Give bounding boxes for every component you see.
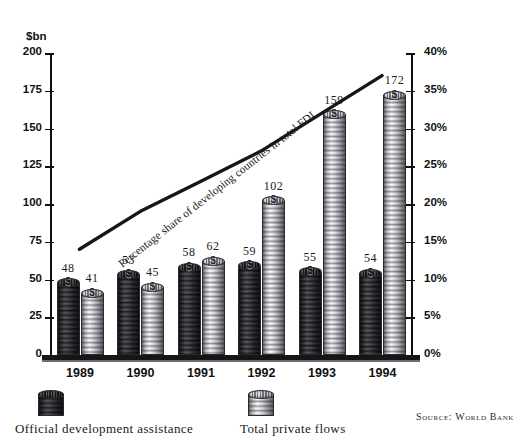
bar-value-label: 45 [133, 265, 173, 280]
coin-top-dollar-icon: $ [359, 269, 382, 278]
y-axis-right-tick-mark [406, 280, 415, 282]
bar-pvt-1990: $ [141, 287, 164, 355]
bar-value-label: 172 [375, 73, 415, 88]
bar-value-label: 62 [193, 239, 233, 254]
coin-stack-body: $ [117, 275, 140, 355]
coin-top-dollar-icon: $ [202, 257, 225, 266]
coin-stack-body: $ [262, 201, 285, 355]
y-axis-left-tick-label: 200 [8, 45, 42, 57]
coin-stack: $ [323, 115, 346, 355]
coin-top-dollar-icon: $ [323, 110, 346, 119]
y-axis-left-tick-mark [45, 280, 54, 282]
coin-top-dollar-icon: $ [178, 263, 201, 272]
y-axis-left-tick-mark [45, 53, 54, 55]
y-axis-left-tick-mark [45, 242, 54, 244]
y-axis-right-tick-mark [406, 91, 415, 93]
y-axis-left-tick-mark [45, 317, 54, 319]
dollar-sign-icon: $ [384, 90, 405, 99]
dollar-sign-icon: $ [360, 268, 381, 277]
coin-stack-body: $ [359, 273, 382, 355]
bar-pvt-1992: $ [262, 201, 285, 355]
dollar-sign-icon: $ [179, 262, 200, 271]
x-axis-year-label-1994: 1994 [353, 366, 413, 380]
y-axis-left-tick-label: 0 [8, 347, 42, 359]
coin-top-dollar-icon: $ [81, 289, 104, 298]
bar-pvt-1989: $ [81, 293, 104, 355]
y-axis-left-tick-label: 100 [8, 196, 42, 208]
y-axis-right-tick-label: 25% [424, 158, 464, 170]
coin-stack: $ [299, 272, 322, 355]
x-axis-year-label-1993: 1993 [292, 366, 352, 380]
y-axis-right-tick-mark [406, 129, 415, 131]
coin-stack: $ [81, 293, 104, 355]
y-axis-right-tick-label: 20% [424, 196, 464, 208]
coin-stack: $ [238, 266, 261, 355]
legend-label-private: Total private flows [240, 421, 346, 437]
bar-value-label: 102 [254, 179, 294, 194]
coin-top-dollar-icon: $ [262, 196, 285, 205]
bar-pvt-1991: $ [202, 261, 225, 355]
y-axis-left-tick-mark [45, 166, 54, 168]
legend-swatch-oda [38, 390, 64, 416]
y-axis-left-tick-label: 75 [8, 234, 42, 246]
coin-stack-body: $ [178, 267, 201, 355]
coin-stack: $ [57, 283, 80, 355]
y-axis-right-tick-label: 40% [424, 45, 464, 57]
y-axis-left-tick-mark [45, 91, 54, 93]
chart-canvas: $bn 2001751501251007550250 40%35%30%25%2… [0, 0, 520, 448]
dollar-sign-icon: $ [203, 256, 224, 265]
y-axis-right-tick-label: 0% [424, 347, 464, 359]
coin-stack: $ [141, 287, 164, 355]
coin-stack: $ [202, 261, 225, 355]
y-axis-left-tick-mark [45, 129, 54, 131]
y-axis-right-tick-label: 10% [424, 272, 464, 284]
y-axis-right-tick-mark [406, 166, 415, 168]
y-axis-left-tick-label: 25 [8, 309, 42, 321]
y-axis-left-tick-mark [45, 204, 54, 206]
coin-stack-body: $ [299, 272, 322, 355]
y-axis-unit-label: $bn [26, 30, 46, 42]
coin-stack-body: $ [81, 293, 104, 355]
y-axis-right-tick-mark [406, 317, 415, 319]
bar-oda-1992: $ [238, 266, 261, 355]
y-axis-left-tick-label: 150 [8, 121, 42, 133]
source-note: Source: World Bank [416, 411, 514, 422]
bar-oda-1991: $ [178, 267, 201, 355]
x-axis-year-label-1990: 1990 [111, 366, 171, 380]
y-axis-right-tick-label: 5% [424, 309, 464, 321]
coin-stack: $ [262, 201, 285, 355]
coin-stack-body: $ [57, 283, 80, 355]
y-axis-left-tick-label: 50 [8, 272, 42, 284]
y-axis-right-tick-label: 30% [424, 121, 464, 133]
x-axis-year-label-1992: 1992 [232, 366, 292, 380]
coin-top-dollar-icon: $ [383, 91, 406, 100]
y-axis-right-tick-label: 35% [424, 83, 464, 95]
dollar-sign-icon: $ [82, 288, 103, 297]
trend-line-svg [0, 0, 520, 448]
legend-label-oda: Official development assistance [15, 421, 193, 437]
y-axis-right-tick-label: 15% [424, 234, 464, 246]
bar-oda-1990: $ [117, 275, 140, 355]
y-axis-left-tick-label: 125 [8, 158, 42, 170]
bar-value-label: 41 [72, 271, 112, 286]
dollar-sign-icon: $ [239, 260, 260, 269]
coin-stack: $ [178, 267, 201, 355]
y-axis-right-tick-mark [406, 53, 415, 55]
coin-stack-body: $ [202, 261, 225, 355]
y-axis-right-tick-mark [406, 204, 415, 206]
coin-stack-body: $ [141, 287, 164, 355]
coin-stack: $ [359, 273, 382, 355]
coin-stack-body: $ [238, 266, 261, 355]
bar-pvt-1993: $ [323, 115, 346, 355]
bar-oda-1993: $ [299, 272, 322, 355]
bar-pvt-1994: $ [383, 95, 406, 355]
x-axis-year-label-1991: 1991 [171, 366, 231, 380]
coin-top-dollar-icon: $ [238, 261, 261, 270]
x-axis-baseline-shadow [42, 360, 420, 362]
coin-top-dollar-icon: $ [299, 267, 322, 276]
bar-oda-1989: $ [57, 283, 80, 355]
dollar-sign-icon: $ [324, 109, 345, 118]
bar-value-label: 159 [314, 93, 354, 108]
y-axis-left-tick-label: 175 [8, 83, 42, 95]
coin-top-dollar-icon: $ [141, 283, 164, 292]
